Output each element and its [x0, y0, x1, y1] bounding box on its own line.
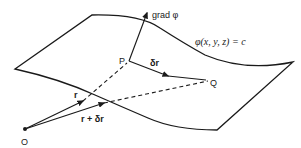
vector-r	[25, 101, 83, 129]
displacement-vector	[129, 61, 168, 76]
point-q-label: Q	[210, 78, 217, 88]
point-p-label: P	[119, 56, 125, 66]
displacement-label: δr	[150, 58, 159, 68]
surface-equation-label: φ(x, y, z) = c	[195, 36, 246, 48]
vector-r-plus-dr-label: r + δr	[81, 114, 104, 124]
origin-point	[23, 127, 27, 131]
vector-r-plus-dr-dashed	[104, 81, 208, 103]
origin-label: O	[21, 137, 28, 147]
vector-r-label: r	[74, 90, 78, 100]
gradient-vector	[129, 13, 147, 61]
displacement-vector-tail	[168, 76, 206, 80]
gradient-label: grad φ	[152, 10, 179, 20]
surface-outline	[15, 15, 293, 130]
vector-r-dashed	[83, 63, 127, 101]
level-surface-diagram: O P Q grad φ δr r r + δr φ(x, y, z) = c	[0, 0, 301, 148]
